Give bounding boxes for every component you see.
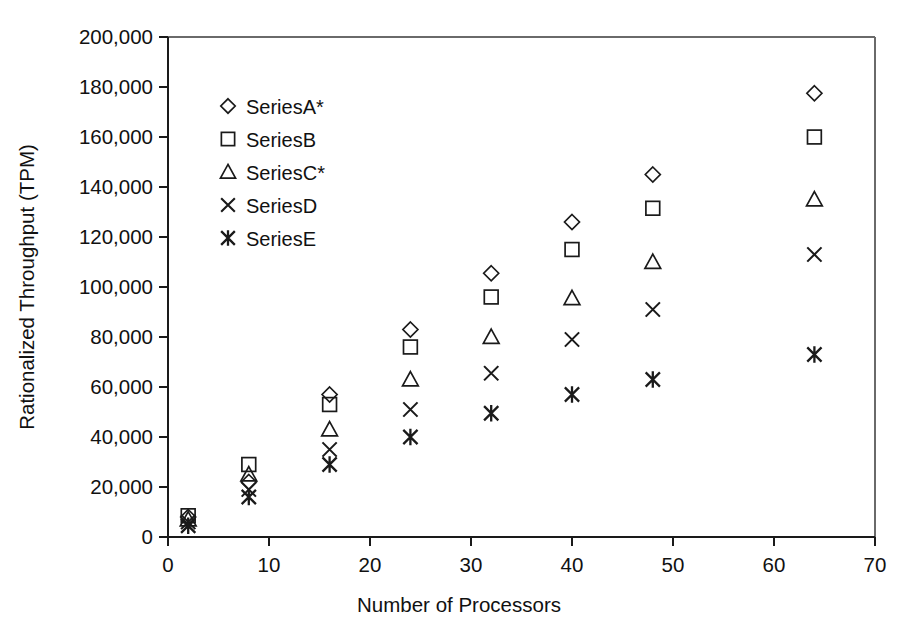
data-point-star xyxy=(322,456,336,472)
data-point-square xyxy=(323,398,337,412)
data-point-diamond xyxy=(807,86,822,101)
y-tick-label: 140,000 xyxy=(79,175,153,198)
legend-item-label: SeriesE xyxy=(246,228,316,250)
x-tick-label: 10 xyxy=(258,553,281,576)
legend-item-label: SeriesD xyxy=(246,195,317,217)
data-point-cross xyxy=(646,302,660,316)
data-point-square xyxy=(565,243,579,257)
data-point-triangle xyxy=(220,164,235,178)
data-point-square xyxy=(242,458,256,472)
data-point-star xyxy=(221,230,235,246)
data-point-diamond xyxy=(403,322,418,337)
y-axis-title: Rationalized Throughput (TPM) xyxy=(15,144,38,430)
y-tick-label: 180,000 xyxy=(79,75,153,98)
legend-item-seriesa: SeriesA* xyxy=(221,96,324,118)
x-tick-label: 70 xyxy=(864,553,887,576)
data-point-cross xyxy=(565,332,579,346)
legend-item-label: SeriesC* xyxy=(246,162,325,184)
data-point-star xyxy=(565,386,579,402)
legend-item-seriesd: SeriesD xyxy=(221,195,317,217)
x-tick-label: 50 xyxy=(662,553,685,576)
x-tick-label: 0 xyxy=(162,553,173,576)
series-seriesa xyxy=(181,86,822,525)
data-point-square xyxy=(808,130,822,144)
y-tick-label: 60,000 xyxy=(90,375,153,398)
data-point-square xyxy=(484,290,498,304)
data-point-square xyxy=(646,201,660,215)
x-axis-title: Number of Processors xyxy=(357,593,561,616)
data-point-star xyxy=(807,346,821,362)
x-tick-label: 30 xyxy=(460,553,483,576)
data-point-triangle xyxy=(807,192,823,206)
data-point-diamond xyxy=(645,167,660,182)
x-tick-label: 40 xyxy=(561,553,584,576)
data-point-cross xyxy=(322,442,336,456)
data-point-diamond xyxy=(484,266,499,281)
legend-item-label: SeriesB xyxy=(246,129,316,151)
data-point-star xyxy=(242,489,256,505)
legend-item-seriesc: SeriesC* xyxy=(220,162,325,184)
y-axis-ticks: 020,00040,00060,00080,000100,000120,0001… xyxy=(79,25,168,548)
data-point-square xyxy=(404,340,418,354)
y-tick-label: 0 xyxy=(142,525,153,548)
data-point-cross xyxy=(221,198,235,212)
data-point-square xyxy=(221,132,234,145)
y-tick-label: 120,000 xyxy=(79,225,153,248)
series-seriesd xyxy=(181,247,821,529)
data-point-triangle xyxy=(564,290,580,304)
series-seriese xyxy=(181,346,821,534)
legend-item-seriese: SeriesE xyxy=(221,228,316,250)
data-point-star xyxy=(646,371,660,387)
data-point-triangle xyxy=(483,329,499,343)
y-tick-label: 200,000 xyxy=(79,25,153,48)
data-point-cross xyxy=(484,366,498,380)
scatter-chart: 020,00040,00060,00080,000100,000120,0001… xyxy=(0,0,918,640)
chart-legend: SeriesA*SeriesBSeriesC*SeriesDSeriesE xyxy=(220,96,325,250)
data-point-star xyxy=(484,405,498,421)
data-point-triangle xyxy=(403,372,419,386)
y-tick-label: 40,000 xyxy=(90,425,153,448)
chart-canvas: 020,00040,00060,00080,000100,000120,0001… xyxy=(0,0,918,640)
data-point-cross xyxy=(403,402,417,416)
series-seriesb xyxy=(181,130,821,523)
data-point-triangle xyxy=(645,254,661,268)
data-point-diamond xyxy=(565,215,580,230)
y-tick-label: 100,000 xyxy=(79,275,153,298)
data-point-triangle xyxy=(322,422,338,436)
data-point-cross xyxy=(807,247,821,261)
data-point-star xyxy=(403,429,417,445)
x-tick-label: 20 xyxy=(359,553,382,576)
legend-item-seriesb: SeriesB xyxy=(221,129,316,151)
y-tick-label: 80,000 xyxy=(90,325,153,348)
data-points xyxy=(180,86,822,534)
data-point-diamond xyxy=(322,387,337,402)
data-point-diamond xyxy=(221,99,235,113)
y-tick-label: 20,000 xyxy=(90,475,153,498)
x-tick-label: 60 xyxy=(763,553,786,576)
y-tick-label: 160,000 xyxy=(79,125,153,148)
legend-item-label: SeriesA* xyxy=(246,96,324,118)
x-axis-ticks: 010203040506070 xyxy=(162,537,886,576)
